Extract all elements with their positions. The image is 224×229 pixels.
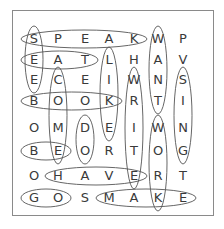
word-oval-make (96, 189, 196, 207)
word-oval-write (125, 67, 143, 189)
word-oval-eat (21, 51, 98, 69)
word-oval-want (149, 26, 167, 114)
word-oval-go (21, 189, 71, 207)
word-oval-be (21, 142, 71, 160)
word-oval-have (45, 167, 147, 185)
word-oval-sing (174, 67, 192, 164)
word-search-grid: SPEAKWPEATLHAVECEIWNSBOOKRTIOMDEIWNBEORT… (0, 0, 224, 229)
word-oval-book (21, 92, 122, 110)
word-oval-speak (21, 30, 147, 48)
word-oval-do (76, 115, 94, 164)
word-oval-see (25, 26, 43, 93)
found-word-markers (0, 0, 224, 229)
word-oval-work (149, 115, 167, 211)
word-oval-come (49, 67, 67, 164)
